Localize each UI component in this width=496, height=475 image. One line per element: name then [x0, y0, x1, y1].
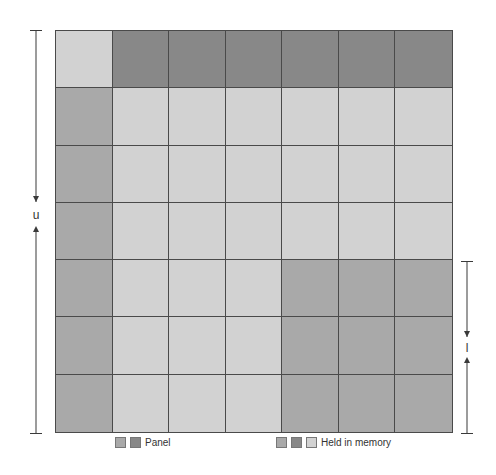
- matrix-block-light: [339, 203, 396, 260]
- matrix-block-medium: [56, 260, 113, 317]
- swatch-medium: [276, 437, 287, 448]
- bracket-label-u: u: [30, 208, 42, 222]
- matrix-block-medium: [395, 260, 452, 317]
- matrix-block-light: [226, 260, 283, 317]
- matrix-block-medium: [339, 317, 396, 374]
- matrix-block-dark: [113, 31, 170, 88]
- bracket-bottom-cap: [30, 433, 42, 434]
- matrix-block-medium: [282, 375, 339, 432]
- matrix-block-light: [226, 203, 283, 260]
- bracket-line-lower: [36, 230, 37, 434]
- matrix-block-light: [282, 88, 339, 145]
- matrix-block-dark: [226, 31, 283, 88]
- matrix-block-medium: [56, 375, 113, 432]
- bracket-line-lower: [467, 361, 468, 433]
- matrix-block-light: [169, 260, 226, 317]
- matrix-block-dark: [169, 31, 226, 88]
- matrix-block-light: [113, 203, 170, 260]
- matrix-block-medium: [56, 317, 113, 374]
- matrix-block-light: [169, 317, 226, 374]
- legend-label-held-in-memory: Held in memory: [321, 437, 391, 448]
- matrix-block-light: [282, 146, 339, 203]
- bracket-line-upper: [467, 261, 468, 337]
- matrix-block-medium: [339, 375, 396, 432]
- matrix-block-light: [113, 317, 170, 374]
- matrix-block-medium: [56, 203, 113, 260]
- matrix-block-light: [226, 375, 283, 432]
- matrix-block-light: [226, 88, 283, 145]
- legend-label-panel: Panel: [145, 437, 171, 448]
- matrix-block-medium: [282, 317, 339, 374]
- legend-panel: Panel: [115, 437, 171, 448]
- swatch-dark: [291, 437, 302, 448]
- matrix-block-light: [395, 146, 452, 203]
- matrix-block-medium: [339, 260, 396, 317]
- matrix-block-light: [395, 88, 452, 145]
- right-dimension-bracket: l: [461, 261, 473, 434]
- swatch-medium: [115, 437, 126, 448]
- matrix-block-dark: [395, 31, 452, 88]
- matrix-block-light: [113, 375, 170, 432]
- matrix-block-light: [169, 375, 226, 432]
- matrix-block-medium: [395, 375, 452, 432]
- matrix-block-dark: [339, 31, 396, 88]
- matrix-block-light: [113, 146, 170, 203]
- matrix-block-medium: [56, 146, 113, 203]
- bracket-line-upper: [36, 30, 37, 202]
- swatch-light: [306, 437, 317, 448]
- bracket-bottom-cap: [461, 433, 473, 434]
- left-dimension-bracket: u: [30, 30, 42, 434]
- matrix-block-light: [339, 88, 396, 145]
- matrix-block-light: [169, 146, 226, 203]
- matrix-block-light: [226, 146, 283, 203]
- arrow-down-icon: [33, 196, 39, 202]
- matrix-block-medium: [56, 88, 113, 145]
- matrix-block-dark: [282, 31, 339, 88]
- matrix-block-light: [169, 88, 226, 145]
- swatch-dark: [130, 437, 141, 448]
- legend-held-in-memory: Held in memory: [276, 437, 391, 448]
- matrix-block-light: [226, 317, 283, 374]
- arrow-down-icon: [464, 331, 470, 337]
- matrix-block-light: [56, 31, 113, 88]
- bracket-label-l: l: [461, 341, 473, 355]
- matrix-block-light: [339, 146, 396, 203]
- matrix-block-light: [113, 88, 170, 145]
- matrix-block-medium: [282, 260, 339, 317]
- matrix-block-light: [113, 260, 170, 317]
- matrix-block-medium: [395, 317, 452, 374]
- block-matrix-grid: [55, 30, 453, 433]
- matrix-block-light: [282, 203, 339, 260]
- matrix-block-light: [169, 203, 226, 260]
- matrix-block-light: [395, 203, 452, 260]
